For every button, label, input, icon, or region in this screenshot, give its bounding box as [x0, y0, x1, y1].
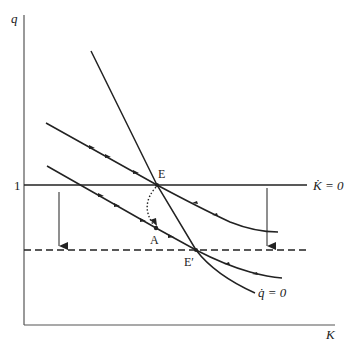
label-E-prime: E′ — [184, 255, 194, 269]
arrow-marker — [89, 145, 95, 149]
phase-diagram: q K 1 K̇ = 0 q̇ = 0 E A E′ — [0, 0, 352, 347]
q-dot-zero-curve — [91, 51, 255, 293]
k-dot-zero-label: K̇ = 0 — [312, 178, 344, 193]
point-E — [155, 183, 159, 187]
label-E: E — [158, 167, 165, 181]
axes — [24, 15, 335, 325]
k-axis-label: K — [325, 327, 336, 342]
saddle-path-new — [47, 166, 282, 278]
arrow-marker — [98, 193, 104, 197]
point-E-prime — [194, 248, 198, 252]
label-A: A — [150, 233, 159, 247]
arrow-marker — [105, 154, 111, 158]
q-dot-zero-label: q̇ = 0 — [258, 285, 287, 300]
y-tick-one: 1 — [14, 178, 21, 193]
point-A — [154, 226, 158, 230]
arrow-marker — [133, 170, 139, 174]
q-axis-label: q — [11, 11, 18, 26]
